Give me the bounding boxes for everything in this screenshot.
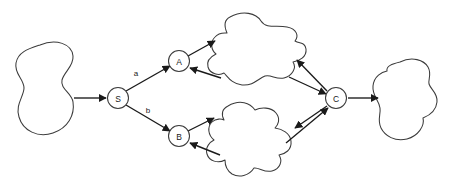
node-b[interactable]: B bbox=[169, 126, 190, 147]
edge-label-a: a bbox=[134, 69, 139, 78]
node-s[interactable]: S bbox=[108, 88, 129, 109]
node-a[interactable]: A bbox=[169, 51, 190, 72]
edge-c-to-blob-bottom bbox=[295, 106, 327, 128]
edge-s-to-a bbox=[126, 66, 170, 91]
node-b-circle[interactable] bbox=[169, 126, 190, 147]
node-c-circle[interactable] bbox=[326, 88, 347, 109]
blob-top-upper-region bbox=[208, 13, 306, 85]
edge-label-b: b bbox=[146, 106, 151, 115]
edge-blob-bottom-to-c bbox=[286, 108, 328, 143]
blob-left-input-region bbox=[16, 42, 74, 135]
blob-right-output-region bbox=[373, 59, 437, 140]
blob-bottom-lower-region bbox=[207, 102, 292, 176]
node-c[interactable]: C bbox=[326, 88, 347, 109]
edge-a-to-blob-top bbox=[188, 41, 215, 56]
blob-group bbox=[16, 13, 437, 176]
edge-label-group: a b bbox=[134, 69, 151, 115]
node-a-circle[interactable] bbox=[169, 51, 190, 72]
node-s-circle[interactable] bbox=[108, 88, 129, 109]
edge-s-to-b bbox=[126, 105, 170, 131]
edge-c-to-blob-top bbox=[297, 60, 327, 91]
edge-blob-top-to-c bbox=[289, 77, 326, 94]
diagram-canvas: S A B C a b bbox=[0, 0, 449, 184]
diagram-svg: S A B C a b bbox=[0, 0, 449, 184]
